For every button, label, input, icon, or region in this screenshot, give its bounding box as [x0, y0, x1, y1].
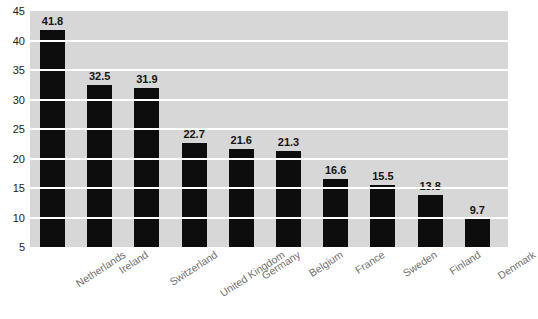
gridline: [30, 187, 508, 189]
x-axis-category-label: Belgium: [307, 249, 345, 279]
x-axis-category-label: Switzerland: [168, 249, 220, 288]
x-axis-category-label: Finland: [448, 249, 483, 277]
bar[interactable]: [40, 30, 65, 247]
y-axis: 45403530252015105: [0, 0, 30, 319]
bar-value-label: 21.6: [218, 135, 264, 146]
bar[interactable]: [229, 149, 254, 247]
bar[interactable]: [87, 85, 112, 247]
bar-value-label: 32.5: [77, 71, 123, 82]
bar[interactable]: [276, 151, 301, 247]
bar[interactable]: [465, 219, 490, 247]
y-axis-tick-label: 20: [1, 154, 25, 165]
chart-title-cropped: [0, 0, 517, 9]
bar-value-label: 15.5: [360, 171, 406, 182]
bar-value-label: 41.8: [30, 16, 76, 27]
y-axis-tick-label: 35: [1, 65, 25, 76]
gridline: [30, 99, 508, 101]
gridline: [30, 128, 508, 130]
bar-value-label: 31.9: [124, 74, 170, 85]
y-axis-tick-label: 45: [1, 6, 25, 17]
bar-value-label: 21.3: [266, 137, 312, 148]
x-axis-category-label: Denmark: [496, 249, 538, 281]
plot-area: 41.832.531.922.721.621.316.615.513.89.7: [30, 11, 508, 247]
y-axis-tick-label: 30: [1, 95, 25, 106]
bar-value-label: 16.6: [313, 165, 359, 176]
gridline: [30, 217, 508, 219]
y-axis-tick-label: 25: [1, 124, 25, 135]
y-axis-tick-label: 15: [1, 183, 25, 194]
y-axis-tick-label: 40: [1, 36, 25, 47]
gridline: [30, 69, 508, 71]
gridline: [30, 158, 508, 160]
x-axis-category-labels: NetherlandsIrelandSwitzerlandUnited King…: [30, 249, 508, 319]
x-axis-category-label: Sweden: [401, 249, 439, 279]
bar-value-label: 9.7: [454, 205, 500, 216]
y-axis-tick-label: 5: [1, 242, 25, 253]
gridline: [30, 40, 508, 42]
bar[interactable]: [418, 195, 443, 247]
bar-value-label: 22.7: [171, 129, 217, 140]
x-axis-category-label: France: [353, 249, 386, 276]
bar[interactable]: [134, 88, 159, 247]
y-axis-tick-label: 10: [1, 213, 25, 224]
